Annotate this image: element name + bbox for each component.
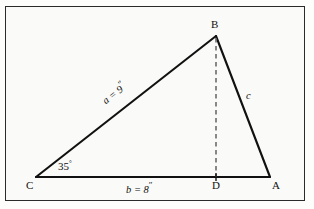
vertex-label-b: B xyxy=(211,19,218,30)
triangle-outline xyxy=(36,36,270,177)
side-c-line xyxy=(216,36,270,177)
side-b-text: b = 8 xyxy=(126,184,149,195)
vertex-label-d: D xyxy=(212,180,220,191)
angle-c-degree-mark: ° xyxy=(69,159,72,167)
angle-label-c: 35° xyxy=(58,160,72,172)
vertex-label-c: C xyxy=(26,180,33,191)
side-label-b: b = 8″ xyxy=(126,181,153,195)
figure-root: B A C D a = 9″ b = 8″ c 35° xyxy=(0,0,314,209)
side-label-c: c xyxy=(246,91,251,102)
side-a-line xyxy=(36,36,216,177)
side-b-inch-mark: ″ xyxy=(149,180,153,190)
angle-c-value: 35 xyxy=(58,160,69,172)
vertex-label-a: A xyxy=(272,180,280,191)
triangle-diagram xyxy=(0,0,314,209)
